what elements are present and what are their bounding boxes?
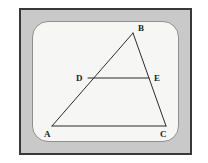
vertex-label-C: C	[160, 130, 167, 139]
segment-AB	[52, 33, 133, 126]
segment-BC	[133, 33, 166, 126]
triangle-diagram	[0, 0, 208, 163]
vertex-label-E: E	[154, 74, 160, 83]
geometry-figure: A B C D E	[0, 0, 208, 163]
vertex-label-A: A	[44, 130, 51, 139]
vertex-label-D: D	[76, 74, 83, 83]
vertex-label-B: B	[138, 24, 144, 33]
